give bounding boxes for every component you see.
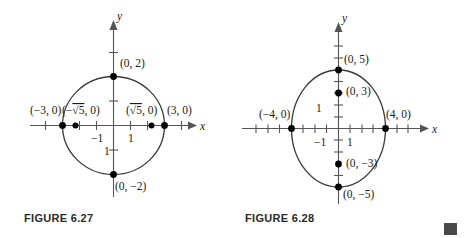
point-marker xyxy=(335,161,342,168)
x-tick-label-1: 1 xyxy=(128,132,134,144)
point-label-0-3: (0, 3) xyxy=(346,85,371,98)
x-axis-label: x xyxy=(431,123,438,135)
point-marker xyxy=(161,122,168,129)
point-marker xyxy=(73,123,79,129)
point-label-0-neg3: (0, −3) xyxy=(346,157,378,170)
point-marker xyxy=(382,125,389,132)
point-label-sqrt5-0: (√5, 0) xyxy=(126,104,157,117)
point-label-0-5: (0, 5) xyxy=(344,53,369,66)
point-marker xyxy=(110,73,117,80)
x-tick-label-neg1: −1 xyxy=(91,132,103,144)
point-label-neg4-0: (−4, 0) xyxy=(259,108,291,121)
point-label-0-neg2: (0, −2) xyxy=(115,180,147,193)
figure-6-27-caption: FIGURE 6.27 xyxy=(24,212,93,224)
point-label-neg-sqrt5-0: (−√5, 0) xyxy=(62,104,100,117)
x-axis-arrowhead xyxy=(188,122,197,130)
figure-6-27-graph: (−3, 0) (−√5, 0) (√5, 0) (3, 0) (0, 2) (… xyxy=(0,0,234,210)
x-axis-arrowhead xyxy=(420,125,429,133)
point-label-3-0: (3, 0) xyxy=(167,104,192,117)
point-label-neg3-0: (−3, 0) xyxy=(30,104,62,117)
x-tick-label-neg1: −1 xyxy=(314,136,326,148)
x-axis-label: x xyxy=(199,120,206,132)
y-axis xyxy=(335,22,343,204)
end-of-section-marker xyxy=(444,223,457,235)
point-marker xyxy=(59,122,66,129)
x-axis xyxy=(242,125,429,133)
point-label-0-2: (0, 2) xyxy=(120,57,145,70)
point-label-4-0: (4, 0) xyxy=(386,108,411,121)
point-marker xyxy=(149,123,155,129)
y-tick-label-1: 1 xyxy=(316,102,322,114)
y-tick-label-1: 1 xyxy=(104,145,110,157)
point-marker xyxy=(335,90,342,97)
point-marker xyxy=(335,184,342,191)
y-axis xyxy=(110,20,118,197)
figure-6-28-caption: FIGURE 6.28 xyxy=(245,212,314,224)
point-marker xyxy=(110,171,117,178)
point-label-0-neg5: (0, −5) xyxy=(343,188,375,201)
point-marker xyxy=(335,67,342,74)
x-tick-label-1: 1 xyxy=(347,136,353,148)
y-axis-label: y xyxy=(341,12,348,25)
figure-page: (−3, 0) (−√5, 0) (√5, 0) (3, 0) (0, 2) (… xyxy=(0,0,468,238)
y-axis-label: y xyxy=(116,10,123,23)
figure-6-28-graph: (−4, 0) (4, 0) (0, 5) (0, 3) (0, −3) (0,… xyxy=(234,0,468,210)
point-marker xyxy=(288,125,295,132)
